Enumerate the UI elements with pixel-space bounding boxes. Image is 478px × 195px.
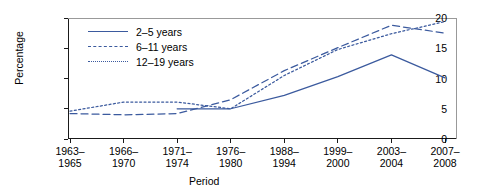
x-tick-label: 1963–1965	[46, 146, 94, 169]
legend-item: 6–11 years	[88, 39, 194, 54]
legend-item-label: 6–11 years	[136, 41, 187, 53]
legend-item: 12–19 years	[88, 54, 194, 69]
x-tick-label: 1976–1980	[207, 146, 255, 169]
x-tick-mark	[337, 139, 338, 143]
x-tick-mark	[445, 139, 446, 143]
y-axis-title: Percentage	[13, 13, 25, 103]
legend-item-label: 12–19 years	[136, 56, 194, 68]
legend-line-swatch-dotted	[88, 57, 128, 66]
chart-legend: 2–5 years 6–11 years 12–19 years	[88, 24, 194, 69]
x-tick-mark	[70, 139, 71, 143]
legend-item: 2–5 years	[88, 24, 194, 39]
legend-line-swatch-dashed	[88, 42, 128, 51]
x-tick-label: 1988–1994	[260, 146, 308, 169]
x-tick-mark	[123, 139, 124, 143]
x-tick-label: 1999–2000	[314, 146, 362, 169]
x-tick-label: 1971–1974	[153, 146, 201, 169]
x-tick-label: 2007–2008	[421, 146, 469, 169]
x-tick-mark	[391, 139, 392, 143]
legend-line-swatch-solid	[88, 27, 128, 36]
x-tick-mark	[230, 139, 231, 143]
series-line	[177, 55, 445, 109]
chart-figure: Percentage Period 05101520 1963–19651966…	[0, 0, 478, 195]
x-tick-mark	[284, 139, 285, 143]
x-tick-label: 1966–1970	[100, 146, 148, 169]
legend-item-label: 2–5 years	[136, 26, 182, 38]
x-axis-title: Period	[189, 175, 219, 187]
x-tick-mark	[177, 139, 178, 143]
x-tick-label: 2003–2004	[367, 146, 415, 169]
